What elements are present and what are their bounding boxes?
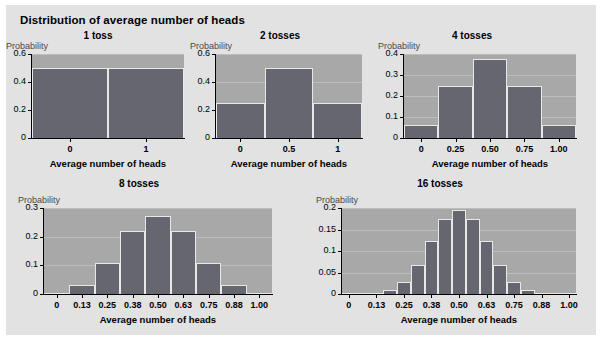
y-tick-label: 0 [300, 288, 336, 298]
plot-area [32, 54, 184, 138]
x-tick-mark [456, 139, 457, 142]
y-axis-line [341, 208, 342, 295]
y-tick-label: 0.2 [2, 231, 38, 241]
bar-series [44, 208, 272, 294]
y-tick-mark [338, 273, 341, 274]
bar [171, 231, 196, 294]
y-tick-label: 0.1 [362, 111, 398, 121]
x-tick-mark [487, 295, 488, 298]
y-axis-line [31, 54, 32, 139]
x-axis-label: Average number of heads [404, 158, 576, 169]
bar [95, 263, 120, 294]
x-tick-mark [240, 139, 241, 142]
y-tick-mark [40, 294, 43, 295]
x-tick-label: 1 [318, 144, 358, 154]
y-tick-mark [338, 230, 341, 231]
figure-title: Distribution of average number of heads [20, 14, 245, 26]
x-tick-label: 0 [220, 144, 260, 154]
bar [480, 241, 494, 294]
y-tick-mark [338, 251, 341, 252]
x-axis-label: Average number of heads [342, 314, 576, 325]
y-tick-mark [212, 54, 215, 55]
y-tick-label: 0 [362, 132, 398, 142]
x-tick-mark [524, 139, 525, 142]
bar [313, 103, 362, 138]
y-tick-label: 0 [174, 132, 210, 142]
bar [69, 285, 94, 294]
x-tick-mark [183, 295, 184, 298]
plot-area [44, 208, 272, 294]
x-axis-label: Average number of heads [32, 158, 184, 169]
y-tick-mark [338, 208, 341, 209]
figure-container: Distribution of average number of heads … [0, 0, 602, 341]
chart-panel: 8 tosses [8, 178, 270, 188]
chart-panel: 4 tosses [372, 30, 572, 40]
bar [438, 86, 472, 139]
y-tick-mark [28, 110, 31, 111]
y-axis-line [43, 208, 44, 295]
bar [493, 265, 507, 294]
bar [108, 68, 184, 138]
x-tick-mark [289, 139, 290, 142]
y-tick-label: 0.15 [300, 224, 336, 234]
y-tick-mark [28, 138, 31, 139]
x-tick-mark [559, 139, 560, 142]
x-tick-mark [514, 295, 515, 298]
y-axis-line [403, 54, 404, 139]
x-tick-mark [569, 295, 570, 298]
bar [397, 282, 411, 294]
bar [145, 216, 170, 294]
x-tick-label: 0.5 [269, 144, 309, 154]
panel-title: 4 tosses [372, 30, 572, 41]
x-tick-mark [158, 295, 159, 298]
bar-series [342, 208, 576, 294]
x-tick-label: 1.00 [549, 300, 589, 310]
bar-series [32, 54, 184, 138]
y-tick-label: 0.2 [0, 104, 26, 114]
x-tick-label: 0 [50, 144, 90, 154]
x-tick-label: 1.00 [239, 300, 279, 310]
x-tick-mark [459, 295, 460, 298]
x-axis-label: Average number of heads [44, 314, 272, 325]
bar [425, 241, 439, 294]
x-axis-line [31, 138, 185, 139]
bar [473, 59, 507, 138]
bar [404, 125, 438, 138]
y-tick-label: 0.05 [300, 267, 336, 277]
x-tick-mark [376, 295, 377, 298]
bar [438, 219, 452, 294]
x-tick-mark [431, 295, 432, 298]
x-tick-mark [490, 139, 491, 142]
plot-area [216, 54, 362, 138]
y-tick-label: 0.1 [2, 259, 38, 269]
y-tick-label: 0.4 [0, 76, 26, 86]
x-tick-mark [107, 295, 108, 298]
y-tick-mark [400, 117, 403, 118]
y-tick-label: 0.4 [362, 48, 398, 58]
x-tick-mark [82, 295, 83, 298]
panel-title: 8 tosses [8, 178, 270, 189]
y-tick-label: 0.4 [174, 76, 210, 86]
x-tick-label: 1.00 [539, 144, 579, 154]
x-axis-label: Average number of heads [216, 158, 362, 169]
bar [507, 86, 541, 139]
x-tick-mark [349, 295, 350, 298]
y-axis-line [215, 54, 216, 139]
y-tick-label: 0.3 [362, 69, 398, 79]
x-tick-mark [259, 295, 260, 298]
x-tick-mark [338, 139, 339, 142]
bar [452, 210, 466, 294]
bar [221, 285, 246, 294]
y-tick-mark [212, 82, 215, 83]
y-tick-label: 0.1 [300, 245, 336, 255]
x-tick-mark [133, 295, 134, 298]
panel-title: 2 tosses [190, 30, 370, 41]
chart-panel: 2 tosses [190, 30, 370, 40]
bar [466, 219, 480, 294]
x-tick-mark [146, 139, 147, 142]
x-tick-mark [57, 295, 58, 298]
bar-series [404, 54, 576, 138]
y-tick-mark [28, 54, 31, 55]
y-tick-mark [400, 75, 403, 76]
y-tick-label: 0.2 [174, 104, 210, 114]
